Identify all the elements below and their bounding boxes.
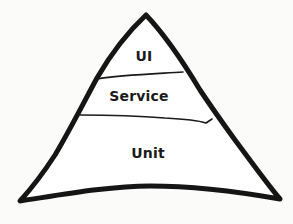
layer-label-unit: Unit [131,145,165,161]
layer-label-service: Service [109,88,169,104]
test-pyramid-diagram: UI Service Unit [0,0,293,224]
pyramid-drawing [0,0,293,224]
layer-label-ui: UI [136,48,153,64]
pyramid-outline [20,15,280,201]
